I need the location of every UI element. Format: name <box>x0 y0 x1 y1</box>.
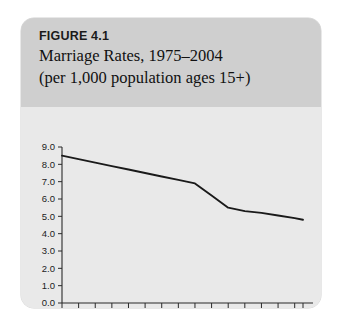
y-tick-label: 7.0 <box>42 176 55 187</box>
figure-header: FIGURE 4.1 Marriage Rates, 1975–2004 (pe… <box>21 18 321 107</box>
y-tick-label: 0.0 <box>42 297 55 308</box>
figure-title-line-2: (per 1,000 population ages 15+) <box>39 67 321 89</box>
x-tick-group: 19751979198319871991199519992003 <box>51 303 305 308</box>
y-tick-label: 3.0 <box>42 245 55 256</box>
y-tick-label: 5.0 <box>42 211 55 222</box>
y-tick-label: 8.0 <box>42 159 55 170</box>
y-tick-group: 0.01.02.03.04.05.06.07.08.09.0 <box>42 141 62 308</box>
figure-card: FIGURE 4.1 Marriage Rates, 1975–2004 (pe… <box>21 18 321 308</box>
figure-title-line-1: Marriage Rates, 1975–2004 <box>39 45 321 67</box>
marriage-rates-line-chart: 0.01.02.03.04.05.06.07.08.09.0 197519791… <box>21 107 321 308</box>
y-tick-label: 6.0 <box>42 193 55 204</box>
y-tick-label: 9.0 <box>42 141 55 152</box>
plot-area: 0.01.02.03.04.05.06.07.08.09.0 197519791… <box>21 107 321 308</box>
figure-number-label: FIGURE 4.1 <box>39 28 321 45</box>
y-tick-label: 1.0 <box>42 280 55 291</box>
y-tick-label: 2.0 <box>42 263 55 274</box>
marriage-rate-line <box>62 156 303 220</box>
y-tick-label: 4.0 <box>42 228 55 239</box>
